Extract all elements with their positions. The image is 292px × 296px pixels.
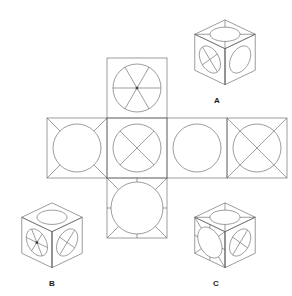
face-spoke [233,242,240,254]
face-ellipse [37,210,67,224]
face-spoke [240,230,247,242]
face-ellipse [230,46,251,73]
net-outer-ray [107,178,119,190]
cube-net [47,58,287,238]
net-outer-ray [155,226,167,238]
option-c[interactable]: C [195,203,255,288]
net-face-top[interactable] [107,58,167,118]
net-face-front[interactable] [107,118,167,178]
net-corner-ray [47,165,60,178]
net-face-border [167,118,227,178]
face-ray [222,248,225,249]
cube-left-pattern [26,229,47,256]
net-outer-ray [155,178,167,190]
option-a[interactable]: A [195,20,255,105]
face-spoke [67,230,74,242]
face-ray [195,235,198,236]
cube-top-pattern [37,210,67,224]
face-spoke [60,237,67,242]
net-face-left[interactable] [47,118,107,178]
cube-right-pattern [230,229,251,256]
face-ellipse [210,27,240,41]
face-ellipse [198,227,222,258]
option-label-c: C [213,279,219,288]
face-spoke [210,59,217,71]
cube-right-pattern [57,229,78,256]
net-circle [111,182,163,234]
option-label-b: B [49,279,55,288]
net-face-bottom[interactable] [107,178,167,238]
face-spoke [233,237,240,242]
net-circle [53,124,101,172]
cube-top-face [22,203,82,232]
puzzle-figure: ABC [0,0,292,296]
face-center-dot [36,241,38,243]
net-face-right[interactable] [167,118,227,178]
face-spoke [210,54,217,59]
net-center-dot [136,87,138,89]
option-label-a: A [214,96,220,105]
net-face-back[interactable] [227,118,287,178]
cube-left-pattern [199,46,220,73]
net-corner-ray [47,118,60,131]
face-spoke [240,242,247,247]
puzzle-canvas: ABC [0,0,292,296]
cube-top-pattern [195,20,255,49]
cube-left-pattern [195,217,225,267]
face-spoke [67,242,74,247]
face-ellipse [210,210,240,224]
option-b[interactable]: B [22,203,82,288]
face-ray [195,249,202,254]
face-spoke [202,47,209,59]
cube-right-pattern [230,46,251,73]
face-spoke [60,242,67,254]
net-corner-ray [94,118,107,131]
net-circle [173,124,221,172]
net-corner-ray [94,165,107,178]
face-ray [218,232,225,237]
face-spoke [202,59,209,64]
net-outer-ray [107,226,119,238]
cube-right-face [225,34,255,84]
